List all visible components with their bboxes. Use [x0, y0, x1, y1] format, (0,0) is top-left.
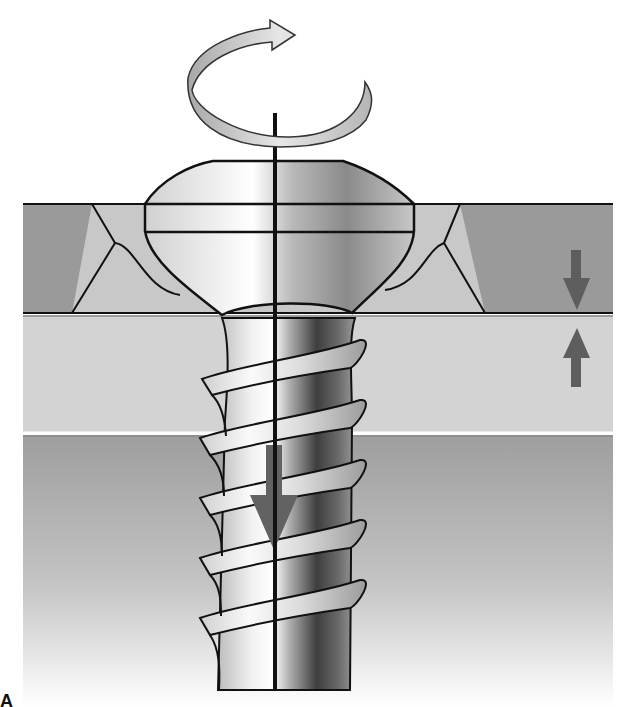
figure-panel-label: A [0, 692, 13, 707]
clockwise-rotation-arrow-icon [188, 20, 372, 147]
lag-screw-diagram [0, 0, 625, 707]
